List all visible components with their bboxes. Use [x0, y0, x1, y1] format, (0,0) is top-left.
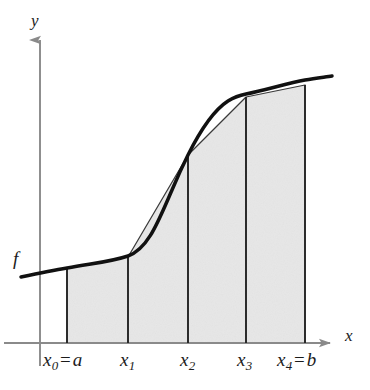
figure-canvas [0, 0, 370, 390]
tick-label-x0: x0=a [43, 350, 82, 373]
tick-suffix-x4: b [307, 349, 317, 370]
tick-suffix-x0: a [73, 349, 83, 370]
tick-label-x4: x4=b [277, 350, 316, 373]
trapezoidal-rule-figure: y x f x0=a x1 x2 x3 x4=b [0, 0, 370, 390]
tick-label-x1: x1 [120, 350, 135, 373]
tick-sub-x2: 2 [188, 358, 195, 373]
function-label: f [13, 249, 18, 268]
tick-sub-x3: 3 [245, 358, 252, 373]
tick-label-x3: x3 [237, 350, 252, 373]
tick-label-x2: x2 [180, 350, 195, 373]
tick-equals-x0: = [58, 349, 73, 370]
shaded-trapezoid-area [67, 85, 305, 343]
tick-equals-x4: = [292, 349, 307, 370]
x-axis-label: x [345, 327, 353, 344]
y-axis-label: y [31, 12, 39, 29]
shaded-area-group [67, 85, 305, 343]
tick-sub-x1: 1 [128, 358, 135, 373]
